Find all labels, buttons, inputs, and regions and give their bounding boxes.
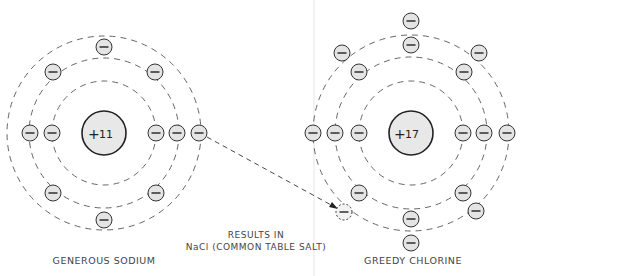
electron-transfer-arrow xyxy=(207,137,338,209)
sodium-nucleus-sign: + xyxy=(88,126,100,142)
caption-line-1: RESULTS IN xyxy=(228,230,284,240)
sodium-label: GENEROUS SODIUM xyxy=(53,255,156,266)
chlorine-label: GREEDY CHLORINE xyxy=(364,255,462,266)
ionic-bond-diagram: + 11 GENEROUS SODIUM + 17 xyxy=(0,0,629,276)
captured-electron xyxy=(336,204,352,220)
chlorine-nucleus-sign: + xyxy=(394,126,406,142)
sodium-nucleus-charge: 11 xyxy=(99,128,113,141)
caption-line-2: NaCl (COMMON TABLE SALT) xyxy=(186,242,327,252)
chlorine-atom: + 17 GREEDY CHLORINE xyxy=(305,13,515,266)
sodium-valence-electron xyxy=(191,125,207,141)
chlorine-nucleus-charge: 17 xyxy=(405,128,419,141)
sodium-atom: + 11 GENEROUS SODIUM xyxy=(7,36,207,266)
